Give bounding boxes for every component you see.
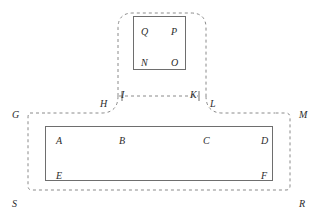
label-r: R <box>299 199 305 209</box>
label-s: S <box>12 199 17 209</box>
lower-dashed-rect-path <box>28 113 290 190</box>
label-q: Q <box>141 27 148 37</box>
lower-solid-rect <box>46 127 273 181</box>
label-i: I <box>121 90 124 100</box>
upper-dashed-outline-path <box>118 13 206 96</box>
label-c: C <box>203 136 210 146</box>
label-g: G <box>12 110 19 120</box>
label-o: O <box>171 58 178 68</box>
right-shoulder-curve-path <box>206 96 275 113</box>
label-m: M <box>299 110 307 120</box>
diagram-canvas: Q P N O H I K L G M S R A B C D E F <box>0 0 318 221</box>
label-n: N <box>141 58 148 68</box>
label-h: H <box>100 99 107 109</box>
label-l: L <box>210 99 216 109</box>
diagram-vector-layer <box>0 0 318 221</box>
label-b: B <box>119 136 125 146</box>
label-a: A <box>56 136 62 146</box>
label-d: D <box>261 136 268 146</box>
label-p: P <box>171 27 177 37</box>
label-f: F <box>261 171 267 181</box>
label-e: E <box>56 171 62 181</box>
label-k: K <box>190 90 197 100</box>
